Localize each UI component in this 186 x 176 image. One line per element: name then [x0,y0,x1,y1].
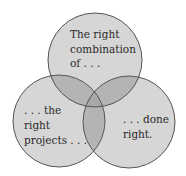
left-label-line-3: projects . . . [24,134,87,146]
top-label-line-1: The right [70,28,120,40]
left-label-line-1: . . . the [24,104,61,116]
right-label-line-2: right. [123,128,152,140]
right-label-line-1: . . . done [123,113,169,125]
left-label-line-2: right [24,119,51,131]
top-label-line-3: of . . . [70,57,100,69]
top-label-line-2: combination [70,43,136,55]
venn-diagram: The right combination of . . . . . . the… [0,0,186,176]
